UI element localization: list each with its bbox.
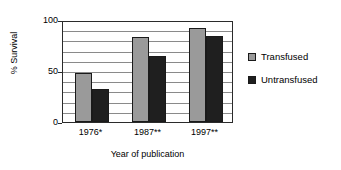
y-axis-tick-label: 50 [32,67,58,76]
chart-legend: TransfusedUntransfused [248,52,338,98]
y-axis-tick-mark [58,72,62,73]
y-axis-tick-labels: 050100 [30,0,58,170]
bar-chart: % Survival 050100 1976*1987**1997** Year… [0,0,341,170]
legend-item: Transfused [248,52,338,62]
legend-label: Untransfused [261,75,318,85]
x-axis-title: Year of publication [62,149,233,159]
x-axis-tick-label: 1987** [134,127,161,137]
x-axis-tick-label: 1997** [191,127,218,137]
legend-swatch-icon [248,76,256,84]
x-axis-tick-labels: 1976*1987**1997** [62,127,233,141]
y-axis-tick-mark [58,123,62,124]
y-axis-tick-label: 0 [32,118,58,127]
y-axis-tick-mark [58,21,62,22]
x-axis-tick-label: 1976* [79,127,103,137]
y-axis-title: % Survival [9,13,19,93]
y-axis-tick-marks [62,21,233,123]
legend-label: Transfused [261,52,308,62]
legend-item: Untransfused [248,75,338,85]
legend-swatch-icon [248,53,256,61]
y-axis-tick-label: 100 [32,16,58,25]
